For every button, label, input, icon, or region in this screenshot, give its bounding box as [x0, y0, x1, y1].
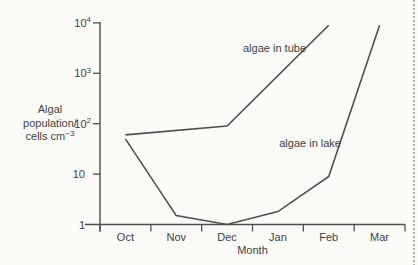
series-label-algae-in-lake: algae in lake	[279, 137, 341, 149]
x-tick-label: Nov	[166, 231, 186, 243]
page-edge-perforation	[413, 0, 415, 265]
y-tick-label: 10	[73, 168, 85, 180]
y-axis-title-line: Algal	[38, 103, 62, 115]
x-tick-label: Feb	[319, 231, 338, 243]
y-tick-label: 103	[74, 66, 91, 80]
y-axis-title-line: cells cm−3	[26, 129, 75, 143]
scanned-chart-page: 104103102101OctNovDecJanFebMarMonthAlgal…	[0, 0, 418, 265]
x-axis-title: Month	[237, 244, 268, 256]
x-tick-label: Oct	[117, 231, 134, 243]
y-tick-label: 1	[79, 219, 85, 231]
series-line-algae-in-lake	[125, 25, 379, 224]
x-tick-label: Jan	[269, 231, 287, 243]
y-tick-label: 104	[74, 15, 91, 29]
y-axis-title-line: population/	[23, 117, 78, 129]
x-tick-label: Dec	[217, 231, 237, 243]
x-tick-label: Mar	[370, 231, 389, 243]
algae-population-chart: 104103102101OctNovDecJanFebMarMonthAlgal…	[0, 0, 418, 265]
series-label-algae-in-tube: algae in tube	[243, 42, 306, 54]
